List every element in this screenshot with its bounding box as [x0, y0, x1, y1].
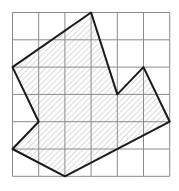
grid-diagram	[0, 0, 179, 191]
